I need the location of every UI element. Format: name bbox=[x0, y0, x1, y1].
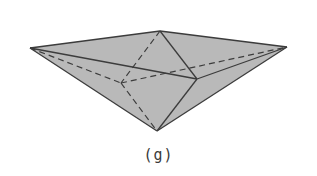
figure-caption: (g) bbox=[0, 146, 317, 164]
polyhedron-silhouette bbox=[30, 31, 287, 131]
